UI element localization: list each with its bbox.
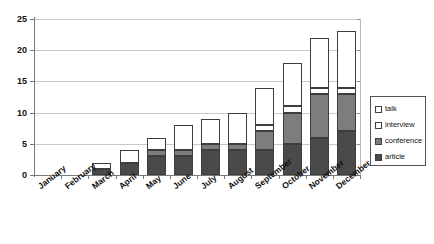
legend-label-conference: conference	[385, 137, 422, 145]
legend-item-talk[interactable]: talk	[375, 101, 422, 117]
stacked-bar-chart: 25 20 15 10 5 0 JanuaryFebruaryMarchApri…	[0, 0, 434, 244]
legend-swatch-interview-icon	[375, 122, 382, 129]
x-axis-label-june: June	[172, 172, 193, 191]
x-axis-label-august: August	[226, 166, 255, 191]
legend-label-talk: talk	[385, 105, 397, 113]
x-axis-label-april: April	[118, 172, 139, 191]
x-axis-label-july: July	[199, 173, 218, 191]
x-axis-label-january: January	[36, 164, 67, 191]
legend-item-conference[interactable]: conference	[375, 133, 422, 149]
x-axis-labels: JanuaryFebruaryMarchAprilMayJuneJulyAugu…	[0, 0, 434, 244]
legend-item-interview[interactable]: interview	[375, 117, 422, 133]
legend-swatch-talk-icon	[375, 106, 382, 113]
legend-item-article[interactable]: article	[375, 149, 422, 165]
legend-label-article: article	[385, 153, 405, 161]
x-axis-label-may: May	[145, 174, 164, 191]
legend-label-interview: interview	[385, 121, 415, 129]
legend-swatch-article-icon	[375, 154, 382, 161]
x-axis-label-march: March	[90, 168, 115, 191]
chart-legend: talk interview conference article	[370, 96, 426, 166]
legend-swatch-conference-icon	[375, 138, 382, 145]
